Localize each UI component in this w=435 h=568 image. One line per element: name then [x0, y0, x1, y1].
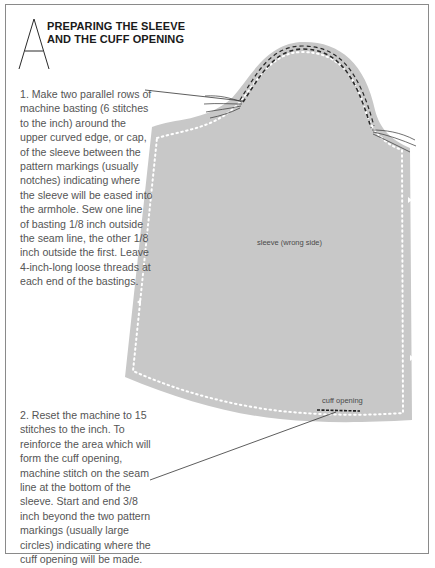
title-line-1: PREPARING THE SLEEVE — [47, 20, 185, 33]
leader-line-step-2 — [150, 412, 336, 480]
step-2-text: 2. Reset the machine to 15 stitches to t… — [20, 408, 170, 566]
page-title: PREPARING THE SLEEVE AND THE CUFF OPENIN… — [47, 20, 185, 46]
cuff-opening-label: cuff opening — [322, 396, 363, 405]
title-line-2: AND THE CUFF OPENING — [47, 33, 185, 46]
step-1-text: 1. Make two parallel rows of machine bas… — [20, 87, 170, 289]
sleeve-label: sleeve (wrong side) — [257, 238, 322, 247]
notch-marker-right-2 — [410, 355, 414, 361]
